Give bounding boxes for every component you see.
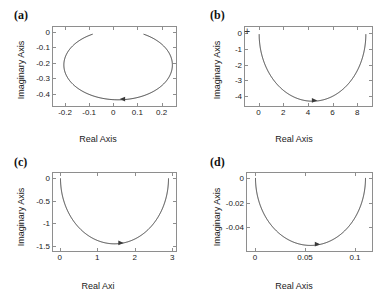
- x-axis-label-c: Real Axi: [0, 281, 196, 291]
- panel-c: (c) Imaginary Axis Real Axi 0-0.5-1-1.50…: [0, 147, 196, 293]
- x-tick-label: 0.1: [349, 253, 360, 262]
- y-tick-label: -0.4: [36, 89, 50, 98]
- x-tick-label: 0: [58, 253, 62, 262]
- y-tick-label: -3: [235, 76, 242, 85]
- direction-arrow: [312, 98, 317, 103]
- y-tick-label: -0.2: [36, 58, 50, 67]
- plot-area-c: 0-0.5-1-1.50123: [52, 172, 177, 252]
- curve-c: [53, 173, 176, 251]
- curve-a: [53, 27, 176, 106]
- y-axis-label-c: Imaginary Axis: [16, 169, 26, 265]
- y-tick-label: -4: [235, 92, 242, 101]
- x-tick-label: 3: [170, 253, 174, 262]
- x-tick-label: 0.2: [156, 108, 167, 117]
- y-tick-label: -1: [43, 219, 50, 228]
- nyquist-trace: [256, 178, 366, 245]
- plus-marker-icon: +: [244, 27, 250, 37]
- x-tick-label: 6: [330, 108, 334, 117]
- x-tick-label: 0: [256, 108, 260, 117]
- plot-area-a: 0-0.1-0.2-0.3-0.4-0.2-0.100.10.2: [52, 26, 177, 107]
- y-tick-label: -1.5: [36, 241, 50, 250]
- figure-canvas: (a) Imaginary Axis Real Axis 0-0.1-0.2-0…: [0, 0, 392, 293]
- y-tick-label: 0: [240, 173, 244, 182]
- x-tick-label: 0.05: [297, 253, 313, 262]
- x-axis-label-d: Real Axis: [196, 281, 392, 291]
- x-tick-label: 2: [133, 253, 137, 262]
- y-tick-label: 0: [46, 174, 50, 183]
- x-tick-label: 2: [281, 108, 285, 117]
- x-tick-label: -0.2: [58, 108, 72, 117]
- y-tick-label: -1: [235, 44, 242, 53]
- panel-d: (d) Imaginary Axis Real Axis 0-0.02-0.04…: [196, 147, 392, 293]
- panel-label-d: (d): [210, 155, 225, 170]
- direction-arrow: [118, 241, 123, 246]
- y-axis-label-d: Imaginary Axis: [212, 169, 222, 265]
- x-tick-label: 0: [111, 108, 115, 117]
- y-tick-label: -0.3: [36, 74, 50, 83]
- curve-d: [247, 173, 372, 251]
- panel-a: (a) Imaginary Axis Real Axis 0-0.1-0.2-0…: [0, 0, 196, 146]
- y-tick-label: 0: [46, 27, 50, 36]
- y-tick-label: -0.5: [36, 196, 50, 205]
- curve-b: [245, 27, 372, 106]
- y-tick-label: -0.04: [226, 223, 244, 232]
- x-tick-label: -0.1: [82, 108, 96, 117]
- x-tick-label: 4: [306, 108, 310, 117]
- panel-b: (b) Imaginary Axis Real Axis 0-1-2-3-402…: [196, 0, 392, 146]
- x-tick-label: 0.1: [132, 108, 143, 117]
- x-axis-label-a: Real Axis: [0, 134, 196, 144]
- y-axis-label-b: Imaginary Axis: [212, 22, 222, 118]
- y-tick-label: -2: [235, 60, 242, 69]
- x-tick-label: 8: [355, 108, 359, 117]
- plot-area-b: 0-1-2-3-402468: [244, 26, 373, 107]
- panel-label-b: (b): [210, 8, 225, 23]
- panel-label-a: (a): [14, 8, 28, 23]
- nyquist-trace: [61, 178, 169, 243]
- direction-arrow: [120, 97, 125, 102]
- y-axis-label-a: Imaginary Axis: [16, 22, 26, 118]
- direction-arrow: [315, 242, 320, 247]
- panel-label-c: (c): [14, 155, 27, 170]
- y-tick-label: 0: [238, 28, 242, 37]
- plot-area-d: 0-0.02-0.0400.050.1: [246, 172, 373, 252]
- nyquist-trace: [64, 34, 173, 100]
- x-tick-label: 0: [253, 253, 257, 262]
- nyquist-trace: [259, 34, 366, 101]
- x-axis-label-b: Real Axis: [196, 134, 392, 144]
- x-tick-label: 1: [95, 253, 99, 262]
- y-tick-label: -0.1: [36, 43, 50, 52]
- y-tick-label: -0.02: [226, 198, 244, 207]
